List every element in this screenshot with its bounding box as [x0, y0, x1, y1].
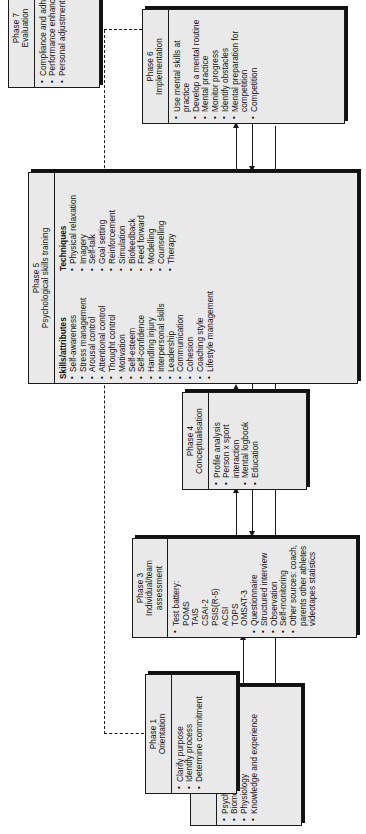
list-item: Identify obstacles — [221, 14, 230, 119]
connector-p3-p4-a — [236, 493, 237, 537]
phase-5-techniques-heading: Techniques — [59, 179, 68, 271]
connector-p1-dashed-rise — [104, 733, 144, 734]
phase-3-name: Individual/team assessment — [145, 541, 164, 635]
phase-1-body: Clarify purposeIdentify processDetermine… — [172, 675, 236, 793]
phase-6-list: Use mental skills at practiceDevelop a m… — [173, 14, 260, 119]
connector-p5-p6-b — [252, 122, 253, 166]
list-item: Handling injury — [147, 283, 156, 379]
phase-1-list: Clarify purposeIdentify processDetermine… — [176, 679, 205, 789]
phase-4-header: Phase 4 Conceptualisation — [183, 393, 209, 489]
phase-3-box[interactable]: Phase 3 Individual/team assessment Test … — [132, 538, 357, 638]
connector-p4-p5-arrow-right — [233, 384, 239, 390]
phase-3-list: Test battery:POMSTAISCSAI-2PSIS(R-5)ACSI… — [172, 543, 317, 633]
list-item: ACSI — [221, 543, 230, 633]
list-item: Interpersonal skills — [157, 283, 166, 379]
connector-p5-p6-a — [236, 128, 237, 172]
phase-6-header: Phase 6 Implementation — [143, 10, 169, 123]
phase-4-name: Conceptualisation — [195, 395, 204, 487]
phase-4-body: Profile analysisPerson x sport interacti… — [209, 393, 306, 489]
phase-7-list: Compliance and adherencePerformance enha… — [39, 0, 68, 83]
phase-6-box[interactable]: Phase 6 Implementation Use mental skills… — [142, 9, 345, 124]
phase-1-header: Phase 1 Orientation — [146, 675, 172, 793]
diagram-stage: Phase 2 Sport analysis PsychologyBiomech… — [0, 0, 366, 834]
list-item: Physiology — [240, 691, 249, 821]
phase-5-column-techniques: Techniques Physical relaxationImagerySel… — [59, 179, 216, 271]
list-item: Knowledge and experience — [250, 691, 259, 821]
list-item: Test battery: — [172, 543, 181, 633]
phase-5-techniques-list: Physical relaxationImagerySelf-talkGoal … — [69, 179, 176, 271]
phase-7-name: Evaluation — [21, 0, 30, 85]
list-item: Reinforcement — [108, 179, 117, 271]
list-item: Thought control — [108, 283, 117, 379]
phase-7-body: Compliance and adherencePerformance enha… — [35, 0, 99, 87]
list-item: Other sources: coach, parents other athl… — [289, 543, 317, 633]
phase-6-body: Use mental skills at practiceDevelop a m… — [169, 10, 344, 123]
list-item: Use mental skills at practice — [173, 14, 192, 119]
phase-5-name: Psychological skills training — [41, 175, 50, 381]
list-item: Questionnaire — [250, 543, 259, 633]
list-item: Personal adjustment — [58, 0, 67, 83]
phase-3-header: Phase 3 Individual/team assessment — [133, 539, 168, 637]
list-item: Mental preparation for competition — [231, 14, 250, 119]
list-item: Physical relaxation — [69, 179, 78, 271]
phase-5-body: Skills/attributes Self-awarenessStress m… — [55, 173, 357, 383]
list-item: Simulation — [118, 179, 127, 271]
list-item: Modelling — [147, 179, 156, 271]
phase-5-skills-heading: Skills/attributes — [59, 283, 68, 379]
list-item: Motivation — [118, 283, 127, 379]
phase-3-body: Test battery:POMSTAISCSAI-2PSIS(R-5)ACSI… — [168, 539, 356, 637]
phase-4-box[interactable]: Phase 4 Conceptualisation Profile analys… — [182, 392, 307, 490]
list-item: Competition — [250, 14, 259, 119]
list-item: Person x sport interaction — [222, 397, 241, 485]
list-item: Education — [251, 397, 260, 485]
list-item: PSIS(R-5) — [211, 543, 220, 633]
phase-1-box[interactable]: Phase 1 Orientation Clarify purposeIdent… — [145, 674, 237, 794]
connector-p2-p3 — [243, 640, 244, 684]
connector-p3-p4-arrow-left — [249, 531, 255, 537]
list-item: Counselling — [157, 179, 166, 271]
list-item: Self-awareness — [69, 283, 78, 379]
list-item: Structured interview — [260, 543, 269, 633]
list-item: Therapy — [167, 179, 176, 271]
phase-5-skills-list: Self-awarenessStress managementArousal c… — [69, 283, 215, 379]
phase-1-name: Orientation — [158, 677, 167, 791]
phase-5-column-skills: Skills/attributes Self-awarenessStress m… — [59, 283, 216, 379]
list-item: Lifestyle management — [206, 283, 215, 379]
phase-7-box[interactable]: Phase 7 Evaluation Compliance and adhere… — [8, 0, 100, 88]
connector-p7-dashed-drop — [104, 29, 142, 30]
list-item: Determine commitment — [195, 679, 204, 789]
phase-7-header: Phase 7 Evaluation — [9, 0, 35, 87]
phase-5-header: Phase 5 Psychological skills training — [29, 173, 55, 383]
phase-4-list: Profile analysisPerson x sport interacti… — [213, 397, 261, 485]
phase-5-box[interactable]: Phase 5 Psychological skills training Sk… — [28, 172, 358, 384]
phase-5-columns: Skills/attributes Self-awarenessStress m… — [59, 177, 216, 379]
list-item: Coaching style — [196, 283, 205, 379]
diagram-canvas: Phase 2 Sport analysis PsychologyBiomech… — [0, 0, 366, 834]
phase-6-name: Implementation — [155, 12, 164, 121]
connector-p3-p4-b — [252, 487, 253, 531]
